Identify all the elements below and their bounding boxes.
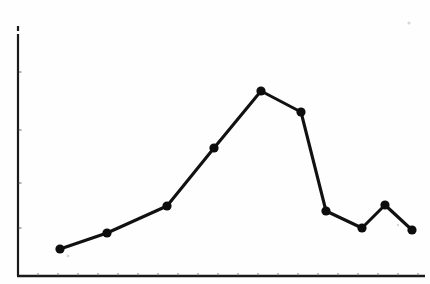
chart-container	[0, 0, 430, 284]
data-point-5	[256, 86, 265, 95]
scan-speck-last-point	[397, 224, 399, 226]
scan-speck-top-right	[407, 21, 410, 24]
data-point-1	[55, 244, 64, 253]
data-point-10	[407, 225, 416, 234]
data-point-7	[321, 206, 330, 215]
data-point-3	[162, 201, 171, 210]
data-point-8	[357, 223, 366, 232]
line-chart-figure	[0, 0, 430, 284]
data-point-4	[209, 143, 218, 152]
chart-background	[0, 0, 430, 284]
scan-speck-first-point	[67, 255, 70, 258]
data-point-6	[296, 107, 305, 116]
data-point-2	[102, 228, 111, 237]
data-point-9	[380, 200, 389, 209]
